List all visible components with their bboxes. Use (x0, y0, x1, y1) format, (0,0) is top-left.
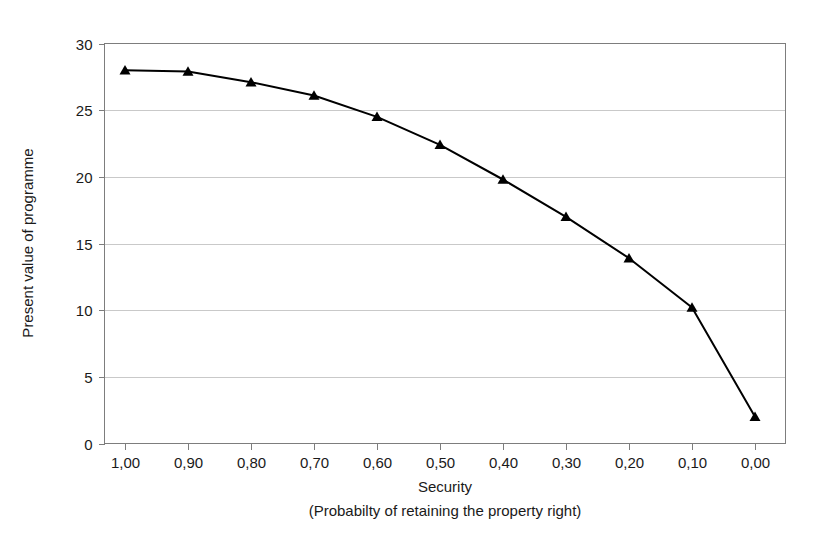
x-tick-label: 0,50 (426, 454, 455, 471)
y-tick-label: 25 (76, 102, 93, 119)
y-tick-label: 5 (84, 369, 92, 386)
x-tick-label: 0,00 (741, 454, 770, 471)
x-tick-label: 0,70 (300, 454, 329, 471)
y-tick-label: 15 (76, 236, 93, 253)
x-axis-title: Security (418, 478, 473, 495)
y-axis-title: Present value of programme (19, 148, 36, 337)
x-tick-label: 0,60 (363, 454, 392, 471)
y-tick-label: 30 (76, 36, 93, 53)
x-tick-label: 0,20 (615, 454, 644, 471)
y-tick-label: 0 (84, 436, 92, 453)
line-chart: 051015202530 1,000,900,800,700,600,500,4… (0, 0, 815, 544)
y-tick-label: 20 (76, 169, 93, 186)
x-tick-label: 0,40 (489, 454, 518, 471)
x-tick-label: 0,30 (552, 454, 581, 471)
x-tick-label: 0,10 (678, 454, 707, 471)
x-tick-label: 0,90 (174, 454, 203, 471)
chart-figure: 051015202530 1,000,900,800,700,600,500,4… (0, 0, 815, 544)
x-axis-subtitle: (Probabilty of retaining the property ri… (309, 502, 582, 519)
x-tick-label: 1,00 (111, 454, 140, 471)
y-tick-label: 10 (76, 302, 93, 319)
plot-area-frame (105, 44, 786, 444)
x-tick-label: 0,80 (237, 454, 266, 471)
